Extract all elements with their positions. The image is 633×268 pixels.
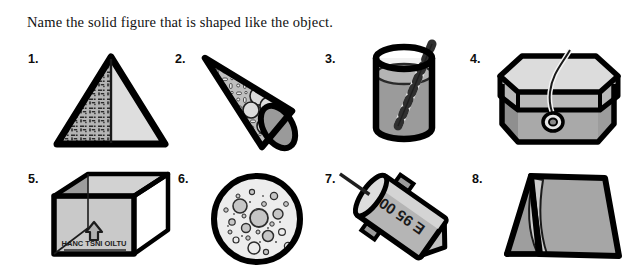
- item-number-2: 2.: [175, 52, 185, 66]
- item-number-5: 5.: [28, 172, 38, 186]
- rocket-icon: E 95 00: [342, 168, 464, 268]
- hexagonal-box-icon: [492, 48, 626, 152]
- glass-cylinder-icon: [358, 30, 450, 152]
- item-number-3: 3.: [325, 52, 335, 66]
- page-title: Name the solid figure that is shaped lik…: [27, 14, 333, 31]
- item-number-7: 7.: [325, 172, 335, 186]
- moon-sphere-icon: [208, 170, 306, 268]
- cardboard-box-icon: HANC TSNI OILTU: [48, 170, 174, 266]
- item-number-1: 1.: [28, 52, 38, 66]
- pyramid-icon: [52, 52, 170, 152]
- item-number-4: 4.: [470, 52, 480, 66]
- item-number-8: 8.: [472, 172, 482, 186]
- worksheet-page: Name the solid figure that is shaped lik…: [0, 0, 633, 268]
- cone-icon: [193, 48, 311, 152]
- item-number-6: 6.: [178, 172, 188, 186]
- tent-icon: [497, 168, 625, 266]
